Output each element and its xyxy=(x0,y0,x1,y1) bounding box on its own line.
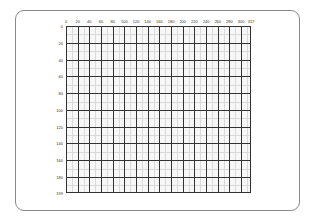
x-axis-label: 120 xyxy=(133,19,140,24)
y-axis-label: 100 xyxy=(44,107,63,112)
x-axis-label: 180 xyxy=(168,19,175,24)
x-axis-label: 280 xyxy=(226,19,233,24)
y-axis-label: 20 xyxy=(44,40,63,45)
major-gridline-horizontal xyxy=(66,177,250,178)
y-axis-label: 140 xyxy=(44,141,63,146)
x-axis-label: 260 xyxy=(214,19,221,24)
major-gridline-horizontal xyxy=(66,60,250,61)
x-axis-label: 20 xyxy=(75,19,79,24)
major-gridline-horizontal xyxy=(66,43,250,44)
y-axis-label: 60 xyxy=(44,74,63,79)
x-axis-label: 240 xyxy=(203,19,210,24)
y-axis-label: 80 xyxy=(44,91,63,96)
x-axis-label: 80 xyxy=(110,19,114,24)
coordinate-grid xyxy=(66,26,251,193)
minor-gridline-horizontal xyxy=(66,185,250,186)
minor-gridline-horizontal xyxy=(66,118,250,119)
x-axis-label: 100 xyxy=(121,19,128,24)
y-axis-label: 0 xyxy=(44,24,63,29)
major-gridline-horizontal xyxy=(66,110,250,111)
x-axis-label: 300 xyxy=(238,19,245,24)
minor-gridline-horizontal xyxy=(66,152,250,153)
x-axis-label: 200 xyxy=(179,19,186,24)
y-axis-label: 180 xyxy=(44,175,63,180)
y-axis-label: 199 xyxy=(44,191,63,196)
major-gridline-horizontal xyxy=(66,143,250,144)
x-axis-label: 60 xyxy=(99,19,103,24)
minor-gridline-horizontal xyxy=(66,169,250,170)
major-gridline-horizontal xyxy=(66,76,250,77)
y-axis-label: 160 xyxy=(44,158,63,163)
x-axis-label: 0 xyxy=(65,19,67,24)
x-axis-label: 140 xyxy=(144,19,151,24)
x-axis-label: 317 xyxy=(248,19,255,24)
minor-gridline-horizontal xyxy=(66,135,250,136)
minor-gridline-horizontal xyxy=(66,85,250,86)
minor-gridline-horizontal xyxy=(66,68,250,69)
major-gridline-horizontal xyxy=(66,93,250,94)
x-axis-label: 40 xyxy=(87,19,91,24)
y-axis-label: 120 xyxy=(44,124,63,129)
major-gridline-horizontal xyxy=(66,127,250,128)
x-axis-label: 220 xyxy=(191,19,198,24)
minor-gridline-horizontal xyxy=(66,102,250,103)
major-gridline-horizontal xyxy=(66,160,250,161)
x-axis-label: 160 xyxy=(156,19,163,24)
minor-gridline-horizontal xyxy=(66,51,250,52)
major-gridline-horizontal xyxy=(66,26,250,27)
minor-gridline-horizontal xyxy=(66,34,250,35)
y-axis-label: 40 xyxy=(44,57,63,62)
